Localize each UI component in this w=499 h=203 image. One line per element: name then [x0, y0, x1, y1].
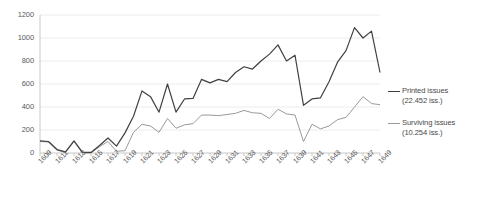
line-chart: 020040060080010001200 160916111613161516…: [0, 0, 499, 203]
legend-sublabel-printed: (22.452 iss.): [402, 96, 496, 106]
gridlines: [40, 15, 380, 153]
series-line: [40, 28, 380, 153]
y-axis-tick-label: 1000: [8, 33, 34, 42]
y-axis-tick-label: 800: [8, 56, 34, 65]
y-axis-tick-label: 200: [8, 125, 34, 134]
legend-label-surviving: Surviving issues: [402, 118, 455, 128]
legend: Printed issues (22.452 iss.) Surviving i…: [388, 86, 496, 149]
y-axis-tick-label: 600: [8, 79, 34, 88]
y-axis-tick-label: 0: [8, 148, 34, 157]
legend-label-printed: Printed issues: [402, 86, 448, 96]
series-line: [40, 97, 380, 153]
legend-swatch-printed: [388, 91, 400, 92]
y-axis-tick-label: 400: [8, 102, 34, 111]
series-lines: [40, 28, 380, 153]
legend-entry-surviving: Surviving issues (10.254 iss.): [388, 118, 496, 139]
legend-entry-printed: Printed issues (22.452 iss.): [388, 86, 496, 107]
legend-sublabel-surviving: (10.254 iss.): [402, 128, 496, 138]
y-axis-tick-label: 1200: [8, 10, 34, 19]
legend-swatch-surviving: [388, 123, 400, 124]
